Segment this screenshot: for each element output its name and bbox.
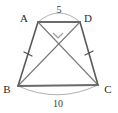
geometry-figure: A D B C 5 10	[0, 0, 118, 113]
vertex-label-b: B	[3, 83, 10, 95]
vertex-label-c: C	[104, 83, 111, 95]
measure-label-top: 5	[57, 4, 62, 15]
base-bc	[18, 85, 98, 86]
trapezoid-diagram-svg: A D B C 5 10	[0, 0, 118, 113]
vertex-label-d: D	[84, 12, 92, 24]
vertex-label-a: A	[20, 12, 28, 24]
right-angle-icon	[53, 33, 63, 38]
measure-label-bottom: 10	[53, 98, 63, 109]
